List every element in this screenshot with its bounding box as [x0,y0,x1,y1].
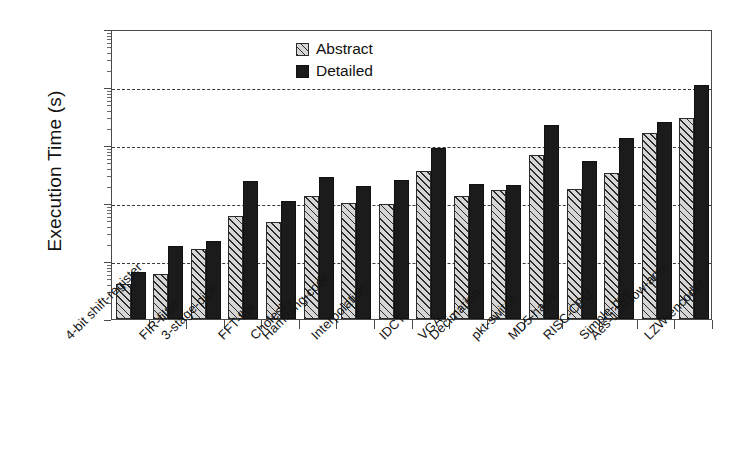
bar-detailed [394,180,409,319]
bar-detailed [319,177,334,319]
legend-swatch-abstract [296,43,309,56]
bar-group [600,31,638,319]
x-tick-mark [299,320,300,329]
legend-label-abstract: Abstract [316,40,373,58]
y-tick-mark-10 [104,262,111,263]
bar-detailed [243,181,258,319]
x-tick-mark [674,320,675,329]
chart-legend: Abstract Detailed [296,40,373,80]
bar-group [413,31,451,319]
y-axis-title: Execution Time (s) [44,21,66,321]
x-tick-mark [374,320,375,329]
x-tick-mark [412,320,413,329]
y-tick-mark-100000 [104,30,111,31]
bar-group [675,31,713,319]
bar-abstract [228,216,243,319]
y-tick-mark-10000 [104,88,111,89]
bar-group [488,31,526,319]
legend-item-abstract: Abstract [296,40,373,58]
bar-abstract [416,171,431,319]
bar-group [525,31,563,319]
chart-figure: Execution Time (s) 110100100010000100000… [0,0,738,458]
bar-detailed [657,122,672,319]
bar-group [262,31,300,319]
legend-item-detailed: Detailed [296,62,373,80]
bar-group [187,31,225,319]
plot-inner [112,31,711,319]
y-tick-mark-100 [104,204,111,205]
bar-abstract [379,204,394,319]
y-tick-mark-1 [104,320,111,321]
x-tick-mark [637,320,638,329]
x-tick-mark [712,320,713,329]
legend-swatch-detailed [296,65,309,78]
bar-detailed [431,148,446,319]
bar-group [563,31,601,319]
bar-group [450,31,488,319]
bar-group [375,31,413,319]
y-tick-mark-1000 [104,146,111,147]
bar-group [225,31,263,319]
bar-group [150,31,188,319]
plot-area [111,30,712,320]
legend-label-detailed: Detailed [316,62,373,80]
